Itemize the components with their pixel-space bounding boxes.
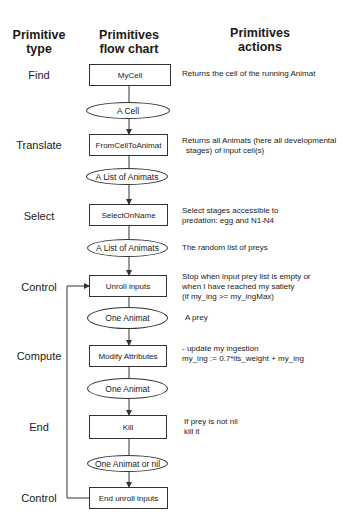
output-one-animat-or-nil: One Animat or nil bbox=[87, 455, 168, 472]
action-selectonname: Select stages accessible to predation: e… bbox=[182, 206, 279, 226]
node-mycell: MyCell bbox=[89, 64, 171, 86]
action-line: A prey bbox=[185, 313, 208, 323]
action-line: - update my ingestion bbox=[182, 344, 304, 354]
type-label-find: Find bbox=[4, 69, 74, 82]
action-a-prey: A prey bbox=[185, 313, 208, 323]
type-label-compute: Compute bbox=[4, 350, 74, 363]
output-one-animat-2: One Animat bbox=[87, 378, 168, 399]
action-kill: If prey is not nil kill it bbox=[184, 417, 238, 437]
action-random-list: The random list of preys bbox=[182, 243, 268, 253]
type-label-control: Control bbox=[4, 281, 74, 294]
node-modify-attributes: Modify Attributes bbox=[89, 345, 167, 367]
type-label-control-end: Control bbox=[4, 492, 74, 505]
action-mycell: Returns the cell of the running Animat bbox=[182, 69, 315, 79]
type-label-end: End bbox=[4, 421, 74, 434]
node-unroll-inputs: Unroll inputs bbox=[89, 275, 167, 297]
action-modify-attributes: - update my ingestion my_ing := 0.7*its_… bbox=[182, 344, 304, 364]
action-line: when I have reached my satiety bbox=[182, 282, 311, 292]
action-line: If prey is not nil bbox=[184, 417, 238, 427]
action-line: Stop when input prey list is empty or bbox=[182, 272, 311, 282]
action-line: stages) of input cell(s) bbox=[182, 146, 336, 156]
action-line: Returns the cell of the running Animat bbox=[182, 69, 315, 79]
output-one-animat: One Animat bbox=[87, 307, 168, 329]
type-label-select: Select bbox=[4, 210, 74, 223]
node-end-unroll-inputs: End unroll inputs bbox=[89, 487, 168, 509]
action-line: Select stages accessible to bbox=[182, 206, 279, 216]
output-a-cell: A Cell bbox=[86, 102, 170, 119]
action-line: predation: egg and N1-N4 bbox=[182, 216, 279, 226]
output-list-of-animats: A List of Animats bbox=[86, 168, 168, 185]
node-fromcelltoanimat: FromCellToAnimat bbox=[89, 134, 168, 156]
node-selectonname: SelectOnName bbox=[89, 204, 168, 226]
node-kill: Kill bbox=[89, 415, 167, 439]
action-unroll-inputs: Stop when input prey list is empty or wh… bbox=[182, 272, 311, 302]
action-line: my_ing := 0.7*its_weight + my_ing bbox=[182, 354, 304, 364]
action-line: The random list of preys bbox=[182, 243, 268, 253]
action-fromcelltoanimat: Returns all Animats (here all developmen… bbox=[182, 136, 336, 156]
output-list-of-animats-2: A List of Animats bbox=[87, 239, 168, 257]
action-line: kill it bbox=[184, 427, 238, 437]
action-line: Returns all Animats (here all developmen… bbox=[182, 136, 336, 146]
type-label-translate: Translate bbox=[4, 139, 74, 152]
action-line: (if my_ing >= my_ingMax) bbox=[182, 292, 311, 302]
